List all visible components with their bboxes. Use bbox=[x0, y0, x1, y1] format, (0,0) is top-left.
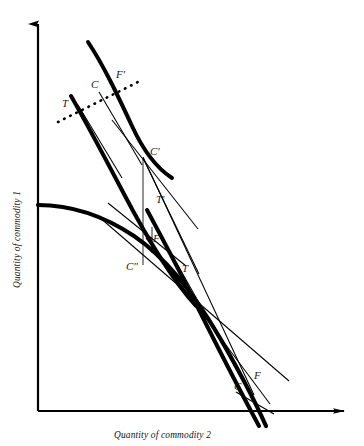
price-line-through-c-prime bbox=[112, 120, 198, 229]
y-axis-label: Quantity of commodity 1 bbox=[12, 191, 22, 288]
label-c-prime: C' bbox=[150, 145, 160, 157]
axes-group bbox=[38, 24, 344, 411]
indifference-curve-lower bbox=[147, 210, 259, 426]
economics-diagram-figure: T C F' C' T' F' C" T C F Quantity of com… bbox=[0, 0, 364, 446]
price-line-upper-thin-a bbox=[78, 105, 122, 178]
point-labels-group: T C F' C' T' F' C" T C F bbox=[62, 68, 261, 392]
price-line-upper-dotted bbox=[58, 80, 142, 122]
label-f-prime: F' bbox=[152, 232, 163, 244]
label-c-double-prime: C" bbox=[126, 260, 138, 272]
diagram-canvas: T C F' C' T' F' C" T C F Quantity of com… bbox=[0, 0, 364, 446]
dotted-price-line-group bbox=[58, 80, 142, 122]
label-t-upper: T bbox=[62, 97, 69, 109]
label-c-upper: C bbox=[91, 78, 99, 90]
label-c-lower: C bbox=[234, 380, 242, 392]
label-t-lower: T bbox=[182, 262, 189, 274]
price-lines-group bbox=[78, 92, 289, 414]
x-axis-label: Quantity of commodity 2 bbox=[114, 430, 211, 440]
label-t-prime: T' bbox=[156, 193, 165, 205]
indifference-curve-outer bbox=[88, 42, 172, 178]
label-f-lower: F bbox=[253, 369, 261, 381]
label-f-upper-prime: F' bbox=[115, 68, 126, 80]
indifference-curves-group bbox=[71, 42, 259, 426]
